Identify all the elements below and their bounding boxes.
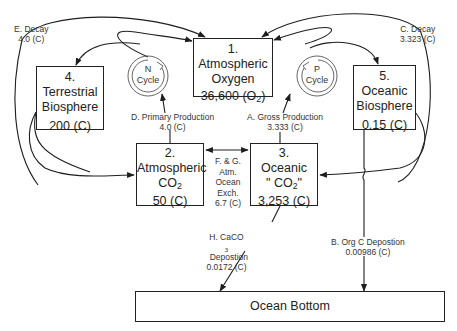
p-cycle-label: P Cycle (301, 64, 333, 86)
n-cycle-label: N Cycle (132, 64, 164, 86)
oxygen-value: 36,600 (O2) (194, 89, 272, 104)
label-b-org-c-deposition: B. Org C Depostion0.00986 (C) (331, 237, 405, 257)
label-h-caco3-deposition: H. CaCO3 Depostion 0.0172 (C) (205, 232, 248, 272)
label-e-decay: E. Decay4.0 (C) (14, 24, 49, 44)
arrow-n-to-oxygen (118, 31, 192, 57)
arrow-p-to-oceanic-bio (310, 42, 378, 64)
box-terrestrial-biosphere: 4. Terrestrial Biosphere 200 (C) (36, 66, 104, 130)
label-c-decay: C. Decay3.323 (C) (400, 24, 435, 44)
box-ocean-bottom: Ocean Bottom (135, 291, 445, 322)
arrow-b-org-c (363, 130, 365, 237)
box-atmospheric-oxygen: 1. Atmospheric Oxygen 36,600 (O2) (193, 38, 273, 97)
arrow-n-to-terrestrial (76, 43, 140, 65)
box-atmospheric-co2: 2. Atmospheric CO2 50 (C) (136, 143, 204, 206)
label-d-primary-production: D. Primary Production4.0 (C) (131, 112, 214, 132)
arrow-p-to-oxygen (274, 27, 332, 44)
label-fg-exchange: F. & G.Atm.OceanExch.6.7 (C) (207, 156, 249, 209)
box-oceanic-co2: 3. Oceanic " CO2" 3,253 (C) (250, 143, 318, 206)
label-a-gross-production: A. Gross Production3.333 (C) (247, 112, 323, 132)
box-oceanic-biosphere: 5. Oceanic Biosphere 0.15 (C) (353, 65, 416, 130)
